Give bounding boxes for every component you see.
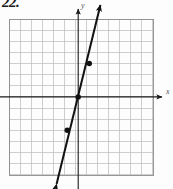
plotted-point <box>65 128 70 133</box>
y-axis-label: y <box>80 1 85 10</box>
coordinate-grid-figure: x y <box>0 0 173 189</box>
worksheet-figure-panel: 22. <box>0 0 173 189</box>
plotted-point <box>87 61 92 66</box>
graph-svg: x y <box>0 0 173 189</box>
plotted-point <box>76 94 81 99</box>
x-axis-label: x <box>165 87 170 96</box>
